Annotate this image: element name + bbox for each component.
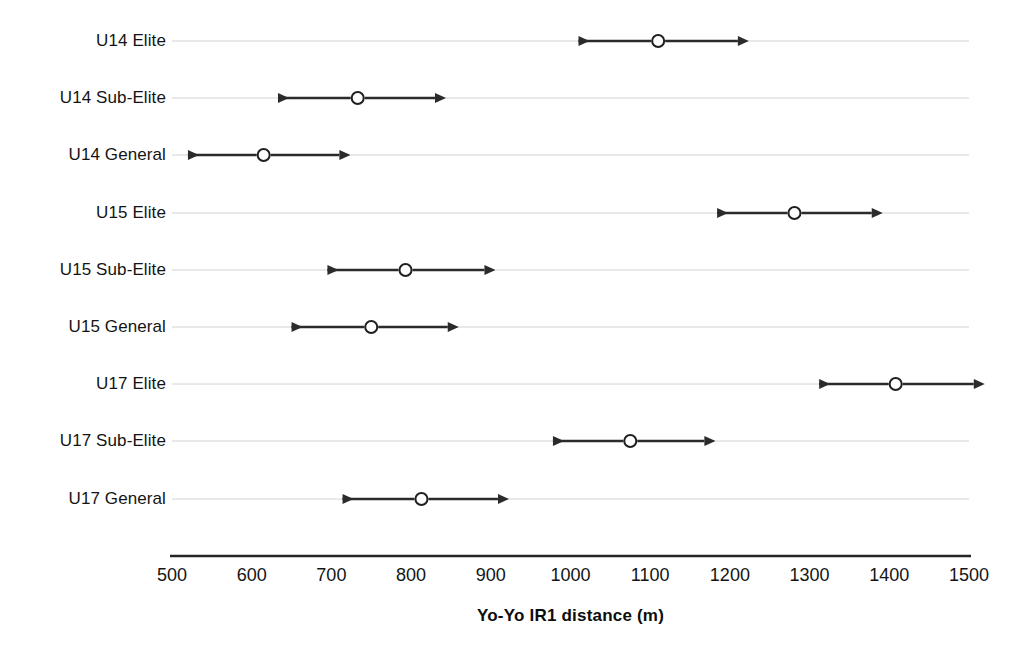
category-label-u17-sub-elite: U17 Sub-Elite xyxy=(60,432,166,449)
mean-marker xyxy=(890,378,902,390)
mean-marker xyxy=(365,321,377,333)
category-label-u17-elite: U17 Elite xyxy=(96,375,166,392)
x-tick-label-1200: 1200 xyxy=(690,566,770,584)
x-tick-label-1000: 1000 xyxy=(531,566,611,584)
x-tick-label-700: 700 xyxy=(291,566,371,584)
category-label-u17-general: U17 General xyxy=(69,490,167,507)
x-tick-label-900: 900 xyxy=(451,566,531,584)
category-label-u14-elite: U14 Elite xyxy=(96,32,166,49)
mean-marker xyxy=(652,35,664,47)
mean-marker xyxy=(258,149,270,161)
category-label-u15-elite: U15 Elite xyxy=(96,204,166,221)
mean-marker xyxy=(624,435,636,447)
x-tick-label-1300: 1300 xyxy=(770,566,850,584)
yo-yo-ir1-range-chart: U14 EliteU14 Sub-EliteU14 GeneralU15 Eli… xyxy=(0,0,1010,650)
category-label-u15-sub-elite: U15 Sub-Elite xyxy=(60,261,166,278)
mean-marker xyxy=(352,92,364,104)
x-tick-label-600: 600 xyxy=(212,566,292,584)
mean-marker xyxy=(415,493,427,505)
x-tick-label-1100: 1100 xyxy=(610,566,690,584)
x-tick-label-800: 800 xyxy=(371,566,451,584)
gridlines-group xyxy=(172,41,969,499)
x-tick-label-500: 500 xyxy=(132,566,212,584)
mean-marker xyxy=(400,264,412,276)
category-label-u14-sub-elite: U14 Sub-Elite xyxy=(60,89,166,106)
x-tick-label-1500: 1500 xyxy=(929,566,1009,584)
x-axis-title: Yo-Yo IR1 distance (m) xyxy=(172,607,969,624)
mean-marker xyxy=(788,207,800,219)
category-label-u14-general: U14 General xyxy=(69,146,167,163)
x-tick-label-1400: 1400 xyxy=(849,566,929,584)
category-label-u15-general: U15 General xyxy=(69,318,167,335)
